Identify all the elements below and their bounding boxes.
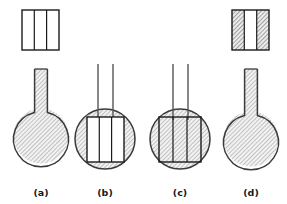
flask-d-neck-fill [245,69,258,118]
figure-container: (a) (b) (c) (d) [0,0,287,204]
panel-label-d: (d) [243,187,258,198]
panel-label-b: (b) [97,187,112,198]
flask-b [75,64,135,169]
top-rect-a [22,10,59,50]
top-rect-d-column-left-fill [232,10,244,50]
flask-c [150,64,210,169]
flask-d-bulb-fill [224,112,279,167]
flask-b-inner-rect [87,117,124,162]
flask-diagram-svg: (a) (b) (c) (d) [0,0,287,204]
flask-a-bulb-fill [14,109,69,164]
top-rect-d-column-right-fill [257,10,269,50]
top-rect-d [232,10,269,50]
panel-label-a: (a) [33,187,48,198]
flask-d [224,69,279,170]
top-rect-a-outline [22,10,59,50]
top-rect-d-column-center-fill [244,10,256,50]
panel-label-c: (c) [173,187,187,198]
flask-a [14,69,69,167]
